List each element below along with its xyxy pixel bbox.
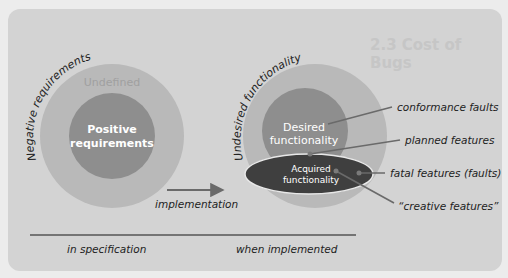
requirements-diagram: Undefined Positive requirements Negative…: [0, 0, 508, 278]
when-implemented-label: when implemented: [236, 243, 338, 255]
dot-fatal: [357, 171, 362, 176]
callout-conformance-faults: conformance faults: [397, 101, 499, 113]
acquired-functionality-ellipse: [245, 154, 373, 194]
callout-planned-features: planned features: [404, 134, 495, 146]
desired-functionality-label-2: functionality: [270, 134, 339, 147]
positive-requirements-label-1: Positive: [87, 123, 137, 136]
undefined-label: Undefined: [84, 76, 140, 89]
callout-fatal-features: fatal features (faults): [390, 167, 501, 179]
right-circle-group: Desired functionality Acquired functiona…: [230, 51, 387, 208]
positive-requirements-label-2: requirements: [70, 137, 154, 150]
left-circle-group: Undefined Positive requirements Negative…: [23, 50, 184, 208]
dot-planned: [308, 152, 313, 157]
desired-functionality-label-1: Desired: [283, 121, 325, 134]
acquired-functionality-label-1: Acquired: [291, 164, 331, 174]
dot-creative: [334, 169, 339, 174]
acquired-functionality-label-2: functionality: [283, 175, 340, 185]
in-specification-label: in specification: [67, 243, 146, 255]
implementation-label: implementation: [155, 198, 238, 210]
callout-creative-features: “creative features”: [398, 200, 499, 212]
positive-requirements-circle: [69, 93, 155, 179]
